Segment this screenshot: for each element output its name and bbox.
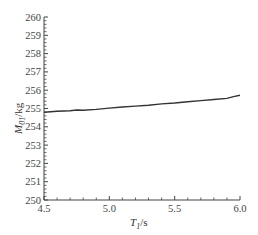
y-tick-label: 255 xyxy=(25,103,41,114)
data-line-m01 xyxy=(44,95,240,112)
y-tick-label: 256 xyxy=(25,85,41,96)
y-axis: 250251252253254255256257258259260 xyxy=(25,12,48,206)
y-tick-label: 258 xyxy=(25,48,41,59)
line-chart: 250251252253254255256257258259260 4.55.0… xyxy=(0,0,258,235)
y-tick-label: 251 xyxy=(25,176,41,187)
x-tick-label: 4.5 xyxy=(37,203,50,214)
y-tick-label: 252 xyxy=(25,158,41,169)
x-tick-label: 5.0 xyxy=(103,203,116,214)
x-axis-label: T1/s xyxy=(130,216,147,231)
x-tick-label: 6.0 xyxy=(233,203,246,214)
x-axis: 4.55.05.56.0 xyxy=(37,196,246,214)
y-tick-label: 257 xyxy=(25,66,41,77)
x-tick-label: 5.5 xyxy=(168,203,181,214)
y-tick-label: 254 xyxy=(25,121,42,132)
y-tick-label: 253 xyxy=(25,140,41,151)
y-tick-label: 259 xyxy=(25,30,41,41)
y-tick-label: 260 xyxy=(25,12,41,23)
